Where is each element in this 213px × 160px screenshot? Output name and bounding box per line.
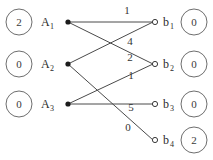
node-label-a1: A: [41, 15, 50, 29]
edge-label-a3-b2: 1: [128, 69, 134, 81]
capacity-value-b2: 0: [191, 58, 197, 70]
right-capacity-group: 0 0 0 2: [181, 9, 207, 153]
node-dot-a2: [65, 61, 70, 66]
edge-group: [68, 22, 153, 140]
capacity-value-b3: 0: [191, 98, 197, 110]
node-label-b2: b: [163, 57, 169, 71]
node-subscript-b2: 2: [170, 64, 174, 73]
node-ring-b3: [152, 101, 157, 106]
capacity-value-b1: 0: [191, 16, 197, 28]
node-label-a3: A: [41, 97, 50, 111]
edge-a2-b4: [68, 64, 153, 140]
edge-label-a1-b2: 4: [127, 35, 133, 47]
edge-a3-b2: [68, 64, 153, 104]
node-ring-b1: [152, 19, 157, 24]
node-subscript-a1: 1: [50, 22, 54, 31]
edge-label-a2-b1: 2: [127, 51, 133, 63]
node-subscript-a3: 3: [50, 104, 54, 113]
edge-label-a3-b3: 5: [128, 101, 134, 113]
edge-label-a1-b1: 1: [124, 4, 130, 16]
left-node-group: A 1 A 2 A 3: [41, 15, 71, 113]
edge-label-group: 1 4 2 1 5 0: [124, 4, 134, 133]
node-subscript-a2: 2: [50, 64, 54, 73]
node-ring-b2: [152, 61, 157, 66]
node-label-b1: b: [163, 15, 169, 29]
node-ring-b4: [152, 137, 157, 142]
node-dot-a3: [65, 101, 70, 106]
capacity-value-a2: 0: [16, 58, 22, 70]
edge-label-a2-b4: 0: [125, 121, 131, 133]
node-subscript-b3: 3: [170, 104, 174, 113]
node-subscript-b1: 1: [170, 22, 174, 31]
node-label-b3: b: [163, 97, 169, 111]
left-capacity-group: 2 0 0: [6, 9, 32, 117]
node-subscript-b4: 4: [170, 140, 174, 149]
graph-canvas: 1 4 2 1 5 0 2 0 0 0 0 0 2: [0, 0, 213, 160]
bipartite-graph-diagram: 1 4 2 1 5 0 2 0 0 0 0 0 2: [0, 0, 213, 160]
capacity-value-a3: 0: [16, 98, 22, 110]
node-label-a2: A: [41, 57, 50, 71]
node-label-b4: b: [163, 133, 169, 147]
right-node-group: b 1 b 2 b 3 b 4: [152, 15, 174, 149]
node-dot-a1: [65, 19, 70, 24]
capacity-value-a1: 2: [16, 16, 22, 28]
capacity-value-b4: 2: [191, 134, 197, 146]
